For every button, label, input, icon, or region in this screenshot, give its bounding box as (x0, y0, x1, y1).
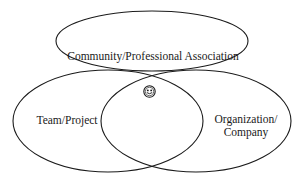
venn-diagram: Community/Professional Association Team/… (0, 0, 305, 178)
label-organization-line1: Organization/ (197, 113, 295, 126)
label-organization-company: Organization/ Company (197, 113, 295, 139)
label-team-project: Team/Project (13, 114, 121, 127)
smiley-face-icon (143, 85, 156, 98)
label-community-professional-association: Community/Professional Association (60, 50, 246, 63)
label-organization-line2: Company (197, 126, 295, 139)
